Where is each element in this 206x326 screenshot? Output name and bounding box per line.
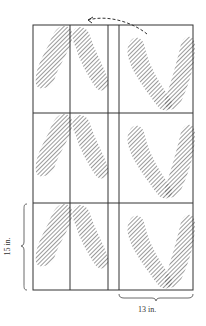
panel-diagram — [0, 0, 206, 326]
width-label: 13 in. — [138, 305, 156, 314]
row-1-shapes — [36, 26, 195, 110]
row-2-shapes — [36, 114, 195, 198]
height-bracket — [21, 204, 27, 290]
height-label: 15 in. — [3, 237, 12, 255]
width-bracket — [119, 294, 193, 301]
row-3-shapes — [36, 204, 195, 288]
